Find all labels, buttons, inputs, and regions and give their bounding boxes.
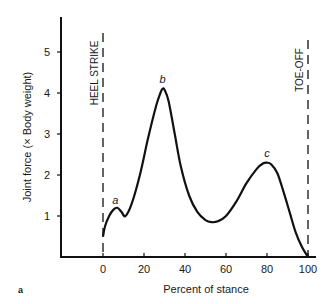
y-axis-label: Joint force (× Body weight) <box>21 72 33 203</box>
joint-force-chart: 12345020406080100 HEEL STRIKETOE-OFF abc… <box>0 0 335 304</box>
vertical-markers: HEEL STRIKETOE-OFF <box>89 33 308 257</box>
peak-label-b: b <box>159 73 165 85</box>
x-tick-label: 40 <box>179 263 191 275</box>
x-tick-label: 80 <box>261 263 273 275</box>
toe-off-label: TOE-OFF <box>294 48 305 92</box>
y-tick-label: 1 <box>44 210 50 222</box>
y-tick-label: 3 <box>44 128 50 140</box>
x-tick-label: 0 <box>100 263 106 275</box>
peak-label-c: c <box>264 147 270 159</box>
y-tick-label: 2 <box>44 169 50 181</box>
peak-annotations: abc <box>112 73 270 206</box>
x-tick-label: 100 <box>299 263 317 275</box>
axes: 12345020406080100 <box>44 17 317 275</box>
y-tick-label: 5 <box>44 46 50 58</box>
peak-label-a: a <box>112 194 118 206</box>
x-tick-label: 20 <box>138 263 150 275</box>
y-tick-label: 4 <box>44 87 50 99</box>
data-series <box>103 88 308 257</box>
panel-label: a <box>18 285 24 295</box>
x-axis-label: Percent of stance <box>163 283 249 295</box>
x-tick-label: 60 <box>220 263 232 275</box>
joint-force-curve <box>103 88 308 257</box>
heel-strike-label: HEEL STRIKE <box>89 40 100 105</box>
